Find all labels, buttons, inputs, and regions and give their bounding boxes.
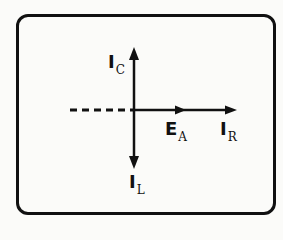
label-ea-main: E	[165, 118, 177, 139]
ic-arrowhead-icon	[129, 47, 139, 60]
label-ir-sub: R	[228, 130, 237, 144]
label-ic-sub: C	[116, 63, 125, 77]
label-ir-main: I	[220, 118, 227, 139]
label-il-main: I	[129, 171, 136, 192]
label-il: IL	[129, 173, 145, 191]
label-ic-main: I	[108, 51, 115, 72]
il-arrowhead-icon	[129, 156, 139, 169]
label-ea: EA	[165, 120, 187, 138]
label-ir: IR	[220, 120, 237, 138]
label-ic: IC	[108, 53, 125, 71]
ea-arrowhead-icon	[175, 106, 186, 115]
label-il-sub: L	[137, 183, 145, 197]
ir-arrowhead-icon	[225, 106, 237, 115]
label-ea-sub: A	[178, 130, 187, 144]
